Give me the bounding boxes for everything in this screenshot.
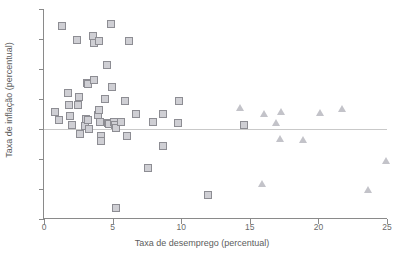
x-axis-line xyxy=(43,218,387,219)
data-point-triangle xyxy=(272,119,280,126)
data-point-square xyxy=(75,93,83,101)
x-tick-label: 15 xyxy=(235,223,265,232)
data-point-square xyxy=(90,76,98,84)
x-tick-label: 25 xyxy=(372,223,402,232)
data-point-triangle xyxy=(260,110,268,117)
data-point-triangle xyxy=(277,108,285,115)
y-tick xyxy=(39,9,44,10)
y-tick xyxy=(39,129,44,130)
data-point-square xyxy=(85,125,93,133)
data-point-triangle xyxy=(276,135,284,142)
y-axis-title: Taxa de inflação (percentual) xyxy=(4,0,14,205)
data-point-square xyxy=(68,121,76,129)
data-point-square xyxy=(74,101,82,109)
data-point-square xyxy=(96,118,104,126)
data-point-triangle xyxy=(316,109,324,116)
data-point-square xyxy=(108,83,116,91)
data-point-square xyxy=(65,101,73,109)
y-tick xyxy=(39,99,44,100)
data-point-square xyxy=(159,110,167,118)
y-axis-line xyxy=(43,9,44,219)
data-point-square xyxy=(103,61,111,69)
data-point-square xyxy=(97,137,105,145)
data-point-square xyxy=(132,110,140,118)
data-point-square xyxy=(117,118,125,126)
data-point-triangle xyxy=(258,180,266,187)
data-point-triangle xyxy=(338,105,346,112)
data-point-square xyxy=(112,204,120,212)
data-point-triangle xyxy=(236,104,244,111)
data-point-square xyxy=(76,130,84,138)
data-point-square xyxy=(66,112,74,120)
data-point-square xyxy=(125,37,133,45)
data-point-square xyxy=(58,22,66,30)
data-point-square xyxy=(64,89,72,97)
x-tick-label: 20 xyxy=(303,223,333,232)
data-point-square xyxy=(121,97,129,105)
data-point-square xyxy=(174,119,182,127)
data-point-square xyxy=(123,132,131,140)
data-point-square xyxy=(95,106,103,114)
data-point-square xyxy=(73,36,81,44)
data-point-square xyxy=(107,20,115,28)
x-tick-label: 5 xyxy=(98,223,128,232)
plot-area: -15-10-505101520 0510152025 xyxy=(44,9,387,219)
data-point-square xyxy=(95,37,103,45)
data-point-triangle xyxy=(299,136,307,143)
data-point-triangle xyxy=(364,186,372,193)
x-axis-title: Taxa de desemprego (percentual) xyxy=(0,238,404,248)
data-point-square xyxy=(55,116,63,124)
scatter-plot-figure: -15-10-505101520 0510152025 Taxa de dese… xyxy=(0,0,404,253)
data-point-square xyxy=(204,191,212,199)
data-point-square xyxy=(159,142,167,150)
data-point-square xyxy=(84,116,92,124)
x-tick-label: 0 xyxy=(29,223,59,232)
y-tick xyxy=(39,39,44,40)
data-point-square xyxy=(175,97,183,105)
data-point-square xyxy=(240,121,248,129)
data-point-square xyxy=(149,118,157,126)
data-point-square xyxy=(101,95,109,103)
data-point-square xyxy=(51,108,59,116)
data-point-triangle xyxy=(382,157,390,164)
data-point-square xyxy=(144,164,152,172)
y-tick xyxy=(39,69,44,70)
y-tick xyxy=(39,159,44,160)
x-tick-label: 10 xyxy=(166,223,196,232)
zero-reference-line xyxy=(44,129,387,130)
y-tick xyxy=(39,189,44,190)
